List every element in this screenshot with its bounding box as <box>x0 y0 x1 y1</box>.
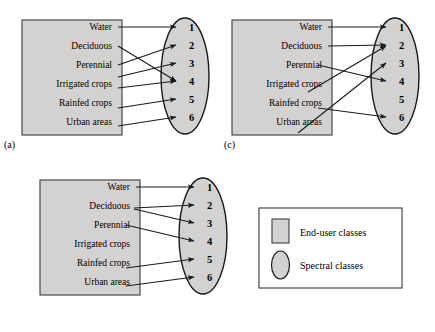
end-user-label-perennial: Perennial <box>94 220 130 230</box>
panel-a-svg: Water Deciduous Perennial Irrigated crop… <box>0 0 215 155</box>
spectral-number-2: 2 <box>189 40 194 51</box>
spectral-number-3: 3 <box>207 218 212 229</box>
end-user-label-water: Water <box>108 182 131 192</box>
panel-b: Water Deciduous Perennial Irrigated crop… <box>28 172 243 332</box>
legend-label-spectral-classes: Spectral classes <box>300 260 363 271</box>
spectral-number-4: 4 <box>399 76 405 87</box>
spectral-number-6: 6 <box>207 272 212 283</box>
legend: End-user classes Spectral classes <box>258 207 403 289</box>
spectral-number-4: 4 <box>207 236 213 247</box>
spectral-number-6: 6 <box>399 112 404 123</box>
panel-c-caption: (c) <box>224 139 235 151</box>
end-user-label-rainfed-crops: Rainfed crops <box>59 98 112 108</box>
spectral-number-1: 1 <box>189 22 194 33</box>
end-user-label-rainfed-crops: Rainfed crops <box>269 98 322 108</box>
arrow-urban-areas-to-6 <box>118 117 176 126</box>
spectral-number-2: 2 <box>207 200 212 211</box>
spectral-ellipse <box>179 178 227 294</box>
spectral-ellipse <box>371 18 419 134</box>
legend-rectangle-swatch <box>272 219 289 243</box>
panel-a-caption: (a) <box>4 139 15 151</box>
end-user-label-deciduous: Deciduous <box>281 41 322 51</box>
spectral-number-3: 3 <box>189 58 194 69</box>
legend-label-end-user-classes: End-user classes <box>300 227 366 238</box>
spectral-number-2: 2 <box>399 40 404 51</box>
spectral-number-4: 4 <box>189 76 195 87</box>
end-user-label-deciduous: Deciduous <box>71 41 112 51</box>
legend-svg: End-user classes Spectral classes <box>258 207 403 289</box>
figure-canvas: Water Deciduous Perennial Irrigated crop… <box>0 0 435 332</box>
end-user-label-irrigated-crops: Irrigated crops <box>56 79 112 89</box>
end-user-label-perennial: Perennial <box>286 60 322 70</box>
spectral-number-1: 1 <box>399 22 404 33</box>
panel-a: Water Deciduous Perennial Irrigated crop… <box>0 0 215 155</box>
spectral-number-6: 6 <box>189 112 194 123</box>
end-user-label-perennial: Perennial <box>76 60 112 70</box>
end-user-label-irrigated-crops: Irrigated crops <box>266 79 322 89</box>
spectral-number-5: 5 <box>207 254 212 265</box>
panel-c: Water Deciduous Perennial Irrigated crop… <box>220 0 435 155</box>
spectral-number-3: 3 <box>399 58 404 69</box>
end-user-label-water: Water <box>90 22 113 32</box>
end-user-label-urban-areas: Urban areas <box>84 277 130 287</box>
end-user-label-rainfed-crops: Rainfed crops <box>77 258 130 268</box>
end-user-label-water: Water <box>300 22 323 32</box>
end-user-label-deciduous: Deciduous <box>89 201 130 211</box>
spectral-number-1: 1 <box>207 182 212 193</box>
panel-c-svg: Water Deciduous Perennial Irrigated crop… <box>220 0 435 155</box>
end-user-label-irrigated-crops: Irrigated crops <box>74 239 130 249</box>
end-user-label-urban-areas: Urban areas <box>66 117 112 127</box>
legend-ellipse-swatch <box>272 251 290 279</box>
spectral-number-5: 5 <box>189 94 194 105</box>
spectral-number-5: 5 <box>399 94 404 105</box>
panel-b-svg: Water Deciduous Perennial Irrigated crop… <box>28 172 243 332</box>
